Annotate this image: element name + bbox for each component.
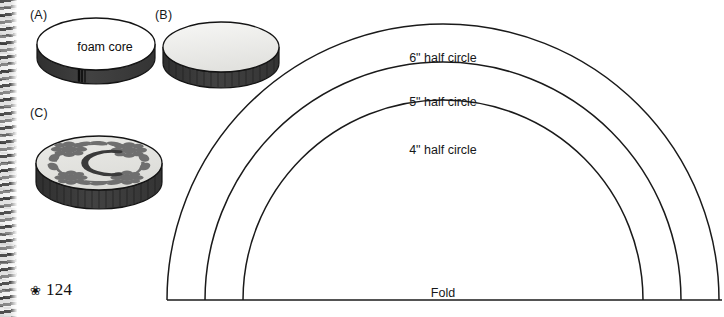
page-number: 124 [46,280,72,300]
disc-a-foam-core [37,18,155,92]
arc-label-4-inch: 4" half circle [409,143,477,157]
disc-c-finished [32,136,167,220]
panel-label-c: (C) [30,106,48,120]
arc-4-inch [243,100,643,300]
arc-label-6-inch: 6" half circle [409,51,477,65]
arc-label-5-inch: 5" half circle [409,95,477,109]
disc-b-top-face [163,22,279,72]
foam-core-caption: foam core [77,40,133,54]
diagram-page: (A) (B) (C) foam core 6" half circle 5" … [0,0,724,317]
panel-label-a: (A) [30,8,47,22]
page-folio: ❀ 124 [30,280,72,300]
fold-label: Fold [431,286,455,300]
panel-label-b: (B) [155,8,172,22]
floret-ornament-icon: ❀ [30,284,43,297]
